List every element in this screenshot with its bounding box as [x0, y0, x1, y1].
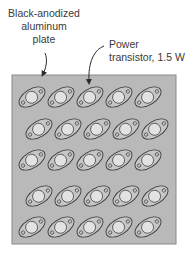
heat-sink-diagram	[0, 0, 187, 258]
plate-pointer-arrow-icon	[43, 53, 46, 74]
